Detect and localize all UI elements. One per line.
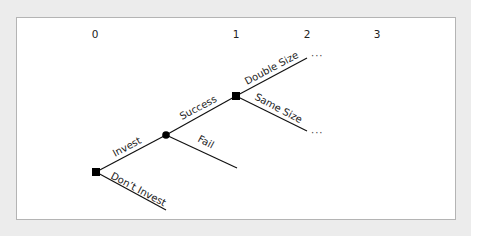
- branch-label-double-size: Double Size: [243, 49, 300, 86]
- time-label-1: 1: [233, 28, 240, 40]
- continuation-dots-double: ···: [311, 50, 324, 61]
- branch-label-fail: Fail: [196, 133, 216, 150]
- root-decision-node: [92, 168, 100, 176]
- second-decision-node: [232, 92, 240, 100]
- chance-node: [162, 131, 170, 139]
- time-label-2: 2: [304, 28, 311, 40]
- branch-label-dont-invest: Don’t Invest: [109, 170, 168, 208]
- continuation-dots-same: ···: [311, 127, 324, 138]
- decision-tree: 0 1 2 3 Invest Don’t Invest Success Fail…: [0, 0, 489, 239]
- time-label-0: 0: [92, 28, 99, 40]
- time-label-3: 3: [374, 28, 381, 40]
